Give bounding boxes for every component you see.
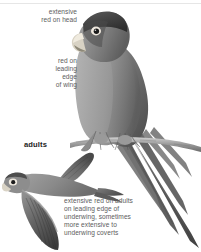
eye: [91, 27, 101, 36]
annotation-adults-heading: adults: [24, 140, 47, 149]
head: [2, 173, 30, 194]
annotation-leading-edge-of-wing: red on leading edge of wing: [28, 57, 77, 89]
annotation-head: extensive red on head: [4, 8, 77, 24]
annotation-underwing: extensive red on adults on leading edge …: [64, 197, 188, 237]
lower-wing-underwing: [21, 190, 58, 250]
illustration-plate: extensive red on head red on leading edg…: [0, 0, 201, 252]
top-divider: [0, 3, 201, 4]
